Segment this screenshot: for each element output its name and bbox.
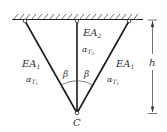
center-ea-label: EA2: [82, 27, 102, 39]
pin-left: [23, 19, 27, 23]
left-ea-label: EA1: [21, 58, 40, 70]
dimension-h-label: h: [149, 57, 155, 68]
pin-center: [75, 19, 79, 23]
pin-right: [127, 19, 131, 23]
beta-left-label: β: [62, 69, 68, 79]
left-alpha-label: αT1: [26, 75, 38, 86]
ceiling-hatch: [14, 14, 138, 19]
right-ea-label: EA1: [115, 58, 134, 70]
truss-diagram: EA2 αT2 EA1 αT1 EA1 αT1 β β C h: [0, 0, 167, 132]
pin-c: [75, 111, 79, 115]
right-alpha-label: αT1: [107, 75, 119, 86]
beta-right-label: β: [83, 69, 89, 79]
node-c-label: C: [73, 117, 81, 128]
center-alpha-label: αT2: [82, 45, 94, 56]
